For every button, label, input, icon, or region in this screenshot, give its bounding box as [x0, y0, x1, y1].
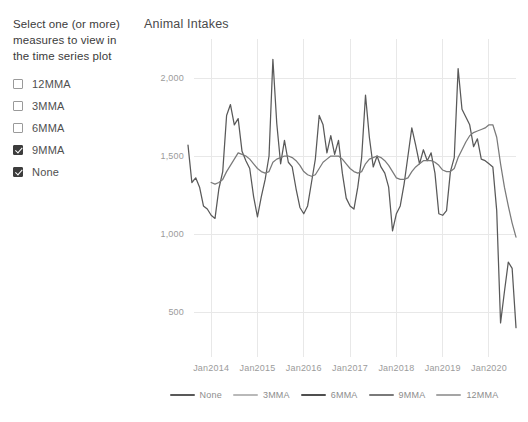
- legend-item-12mma[interactable]: 12MMA: [436, 390, 498, 400]
- chart-plot-area: 5001,0001,5002,000Jan2014Jan2015Jan2016J…: [140, 33, 528, 383]
- checkbox-checked-icon[interactable]: [13, 167, 23, 177]
- legend-label: 9MMA: [399, 390, 426, 400]
- legend-line-swatch: [436, 394, 461, 396]
- chart-title: Animal Intakes: [144, 17, 229, 31]
- slicer-option-none[interactable]: None: [13, 161, 140, 182]
- legend-line-swatch: [301, 394, 326, 396]
- slicer-option-12mma[interactable]: 12MMA: [13, 73, 140, 94]
- legend-label: 12MMA: [466, 390, 498, 400]
- legend-label: None: [200, 390, 222, 400]
- x-axis-tick-label: Jan2016: [286, 363, 322, 373]
- checkbox-checked-icon[interactable]: [13, 145, 23, 155]
- legend-line-swatch: [170, 394, 195, 396]
- legend-item-3mma[interactable]: 3MMA: [233, 390, 290, 400]
- slicer-option-9mma[interactable]: 9MMA: [13, 139, 140, 160]
- x-axis-tick-label: Jan2020: [471, 363, 507, 373]
- chart-legend: None3MMA6MMA9MMA12MMA: [140, 390, 528, 400]
- legend-item-6mma[interactable]: 6MMA: [301, 390, 358, 400]
- x-axis-tick-label: Jan2019: [425, 363, 461, 373]
- slicer-option-label: 9MMA: [32, 144, 65, 156]
- series-line-none: [188, 59, 516, 327]
- slicer-option-label: 3MMA: [32, 100, 65, 112]
- slicer-option-label: None: [32, 166, 59, 178]
- y-axis-tick-label: 1,000: [160, 229, 184, 239]
- y-axis-tick-label: 1,500: [160, 151, 184, 161]
- y-axis-tick-label: 2,000: [160, 73, 184, 83]
- line-chart-svg: 5001,0001,5002,000Jan2014Jan2015Jan2016J…: [140, 33, 528, 383]
- measure-slicer-panel: Select one (or more) measures to view in…: [0, 0, 140, 422]
- slicer-option-6mma[interactable]: 6MMA: [13, 117, 140, 138]
- series-line-9mma: [211, 125, 516, 237]
- slicer-title: Select one (or more) measures to view in…: [13, 16, 121, 64]
- x-axis-tick-label: Jan2014: [193, 363, 229, 373]
- slicer-option-3mma[interactable]: 3MMA: [13, 95, 140, 116]
- x-axis-tick-label: Jan2018: [378, 363, 414, 373]
- y-axis-tick-label: 500: [168, 307, 184, 317]
- legend-label: 3MMA: [263, 390, 290, 400]
- x-axis-tick-label: Jan2017: [332, 363, 368, 373]
- slicer-option-label: 12MMA: [32, 78, 71, 90]
- checkbox-unchecked-icon[interactable]: [13, 123, 23, 133]
- checkbox-unchecked-icon[interactable]: [13, 79, 23, 89]
- x-axis-tick-label: Jan2015: [239, 363, 275, 373]
- animal-intakes-chart-card: Animal Intakes 5001,0001,5002,000Jan2014…: [140, 0, 528, 422]
- slicer-option-label: 6MMA: [32, 122, 65, 134]
- legend-line-swatch: [369, 394, 394, 396]
- legend-item-9mma[interactable]: 9MMA: [369, 390, 426, 400]
- checkbox-unchecked-icon[interactable]: [13, 101, 23, 111]
- legend-item-none[interactable]: None: [170, 390, 222, 400]
- slicer-option-list: 12MMA3MMA6MMA9MMANone: [13, 73, 140, 182]
- legend-line-swatch: [233, 394, 258, 396]
- legend-label: 6MMA: [331, 390, 358, 400]
